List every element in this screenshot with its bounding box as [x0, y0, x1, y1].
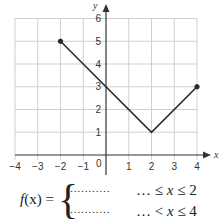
x-axis-arrow-icon — [203, 152, 211, 159]
y-tick-label: 2 — [95, 104, 101, 115]
condition-1: … ≤ x ≤ 2 — [136, 182, 197, 199]
y-tick-label: 5 — [95, 36, 101, 47]
y-axis-arrow-icon — [103, 4, 110, 12]
blank-expression-2: ………… — [66, 203, 122, 215]
formula-row-1: …………… ≤ x ≤ 2 — [66, 182, 197, 199]
endpoint-dot-icon — [195, 85, 199, 89]
x-axis-label: x — [213, 149, 219, 160]
x-tick-label: 4 — [194, 161, 200, 172]
condition-2: … < x ≤ 4 — [136, 203, 197, 220]
y-tick-label: 1 — [95, 127, 101, 138]
x-tick-label: −3 — [32, 161, 44, 172]
x-tick-label: 1 — [126, 161, 132, 172]
axes — [15, 10, 205, 175]
x-tick-labels: −4−3−2−11234 — [9, 161, 200, 172]
x-tick-label: 3 — [171, 161, 177, 172]
x-tick-label: 2 — [149, 161, 155, 172]
x-tick-label: −1 — [78, 161, 90, 172]
function-lhs: f(x) = — [20, 191, 54, 208]
y-tick-label: 3 — [95, 81, 101, 92]
formula-row-2: …………… < x ≤ 4 — [66, 203, 197, 220]
y-tick-label: 4 — [95, 59, 101, 70]
graph: −4−3−2−11234 123456 x y 0 — [0, 0, 223, 180]
blank-expression-1: ………… — [66, 182, 122, 194]
x-tick-label: −2 — [55, 161, 67, 172]
origin-label: 0 — [96, 158, 102, 169]
x-tick-label: −4 — [9, 161, 21, 172]
y-tick-labels: 123456 — [95, 13, 101, 138]
piecewise-formula: f(x) = { …………… ≤ x ≤ 2 …………… < x ≤ 4 — [0, 178, 223, 224]
y-tick-label: 6 — [95, 13, 101, 24]
y-axis-label: y — [92, 0, 98, 11]
endpoint-dot-icon — [58, 39, 62, 43]
